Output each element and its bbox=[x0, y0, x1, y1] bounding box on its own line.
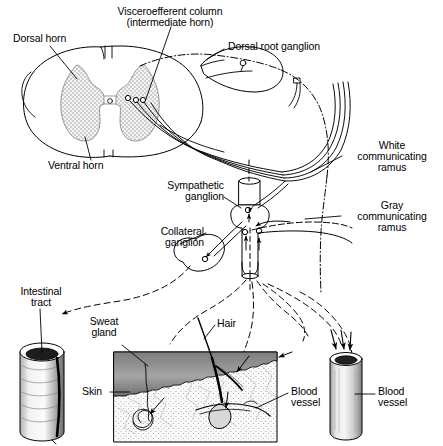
label-sympathetic-ganglion-line2: ganglion bbox=[140, 191, 224, 203]
label-skin: Skin bbox=[82, 386, 102, 398]
label-sweat-gland-line2: gland bbox=[76, 327, 132, 339]
vessel-target-arrows bbox=[331, 330, 351, 350]
label-blood-vessel-skin-line2: vessel bbox=[291, 397, 320, 409]
nerve-stub bbox=[289, 78, 300, 108]
sympathetic-chain-ganglion bbox=[231, 160, 269, 292]
nerve-trunk-arc bbox=[282, 82, 350, 181]
label-blood-vessel-free-line2: vessel bbox=[378, 397, 407, 409]
dorsal-root-ganglion-oval bbox=[201, 47, 283, 92]
intestinal-tract-cylinder bbox=[20, 343, 64, 444]
label-white-ramus-line3: ramus bbox=[344, 162, 440, 174]
skin-block-cutaway bbox=[114, 318, 292, 442]
label-dorsal-root-ganglion: Dorsal root ganglion bbox=[228, 41, 320, 53]
label-gray-ramus-line3: ramus bbox=[344, 222, 440, 234]
label-hair: Hair bbox=[217, 318, 236, 330]
gray-communicating-ramus bbox=[252, 221, 352, 243]
label-visceroefferent-column-line2: (intermediate horn) bbox=[103, 17, 237, 29]
label-dorsal-horn: Dorsal horn bbox=[13, 33, 66, 45]
label-intestinal-tract-line2: tract bbox=[8, 297, 74, 309]
label-ventral-horn: Ventral horn bbox=[48, 160, 103, 172]
blood-vessel-cylinder bbox=[330, 353, 362, 441]
label-collateral-ganglion-line2: ganglion bbox=[116, 237, 204, 249]
anatomical-figure: Dorsal horn Visceroefferent column (inte… bbox=[0, 0, 443, 446]
